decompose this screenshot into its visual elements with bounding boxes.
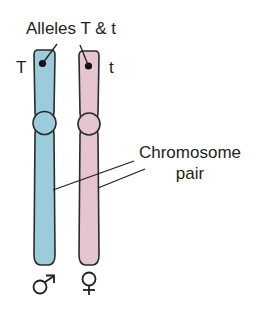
diagram-svg: Alleles T & t T t Chromosome pair [0,0,260,311]
male-centromere [33,112,56,135]
male-chromosome [33,50,56,265]
chromosome-pair-label-line2: pair [176,164,205,183]
female-chromosome-body [79,51,99,265]
alleles-label: Alleles T & t [26,19,116,38]
chromosome-pair-diagram: Alleles T & t T t Chromosome pair [0,0,260,311]
female-chromosome [78,51,100,265]
chromosome-pair-label-line1: Chromosome [139,143,241,162]
female-symbol-icon [83,273,96,296]
female-centromere [78,113,100,135]
male-chromosome-body [34,50,55,265]
male-symbol-icon [34,276,55,294]
allele-t-label: t [109,58,114,77]
allele-T-label: T [16,58,26,77]
